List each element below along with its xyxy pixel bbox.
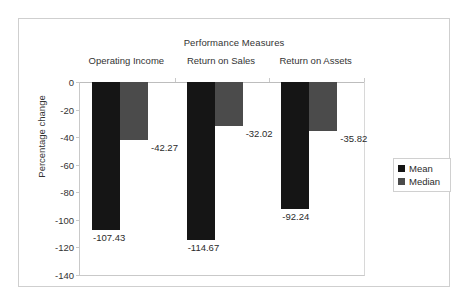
y-tick-mark: [76, 137, 80, 138]
legend-label-mean: Mean: [409, 163, 433, 174]
x-tick-mark: [269, 78, 270, 82]
y-tick-label: -120: [55, 242, 74, 253]
y-tick-label: -80: [60, 187, 74, 198]
y-tick-mark: [76, 110, 80, 111]
category-label: Return on Assets: [268, 55, 363, 66]
bar-mean: [187, 82, 215, 240]
bar-value-label: -92.24: [282, 211, 309, 222]
legend-swatch-mean-icon: [398, 165, 405, 172]
bar-mean: [281, 82, 309, 209]
legend-item-mean: Mean: [398, 162, 446, 175]
y-tick-label: 0: [69, 77, 74, 88]
category-label: Operating Income: [79, 55, 174, 66]
bar-median: [215, 82, 243, 126]
y-tick-mark: [76, 220, 80, 221]
y-axis-title: Percentage change: [36, 77, 47, 197]
x-tick-mark: [364, 78, 365, 82]
bar-value-label: -35.82: [340, 133, 367, 144]
bar-value-label: -107.43: [93, 232, 125, 243]
bar-value-label: -42.27: [151, 142, 178, 153]
y-tick-mark: [76, 247, 80, 248]
bar-value-label: -32.02: [246, 128, 273, 139]
y-tick-mark: [76, 192, 80, 193]
y-tick-label: -40: [60, 132, 74, 143]
y-tick-mark: [76, 165, 80, 166]
legend-swatch-median-icon: [398, 178, 405, 185]
chart-legend: Mean Median: [393, 158, 451, 192]
y-tick-mark: [76, 275, 80, 276]
x-tick-mark: [175, 78, 176, 82]
chart-frame: Performance Measures Percentage change 0…: [18, 18, 450, 287]
y-tick-mark: [76, 82, 80, 83]
y-tick-label: -20: [60, 104, 74, 115]
bar-median: [120, 82, 148, 140]
y-tick-label: -140: [55, 270, 74, 281]
y-tick-label: -60: [60, 159, 74, 170]
bar-mean: [92, 82, 120, 230]
bar-median: [309, 82, 337, 131]
chart-title: Performance Measures: [79, 37, 389, 48]
y-tick-label: -100: [55, 214, 74, 225]
plot-area: 0-20-40-60-80-100-120-140-107.43-42.27-1…: [79, 82, 365, 276]
legend-item-median: Median: [398, 175, 446, 188]
legend-label-median: Median: [409, 176, 440, 187]
bar-value-label: -114.67: [188, 242, 220, 253]
category-label: Return on Sales: [174, 55, 269, 66]
